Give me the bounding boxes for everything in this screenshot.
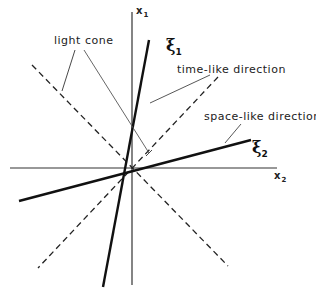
- xi1-label: ξ1: [166, 36, 182, 57]
- time-like-label: time-like direction: [177, 63, 286, 76]
- light-cone-line-1: [32, 65, 228, 266]
- light-cone-diagram: light cone time-like direction space-lik…: [0, 0, 316, 293]
- xi2-label: ξ2: [252, 138, 268, 159]
- light-cone-pointer-2: [84, 50, 149, 153]
- space-like-label: space-like direction: [204, 110, 316, 123]
- xi1-line: [103, 40, 149, 287]
- x2-axis-label: x2: [274, 170, 286, 184]
- light-cone-pointer-1: [62, 50, 75, 91]
- time-like-pointer: [150, 75, 210, 103]
- light-cone-label: light cone: [54, 34, 113, 47]
- space-like-pointer: [225, 124, 241, 143]
- x1-axis-label: x1: [136, 5, 148, 19]
- xi2-line: [19, 140, 251, 201]
